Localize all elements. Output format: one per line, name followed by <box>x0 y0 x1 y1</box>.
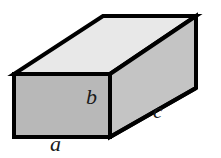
dimension-label-a: a <box>50 133 61 155</box>
box-diagram-figure: a b c <box>0 0 221 158</box>
box-svg <box>0 0 221 158</box>
dimension-label-c: c <box>153 101 162 122</box>
dimension-label-b: b <box>86 86 97 108</box>
